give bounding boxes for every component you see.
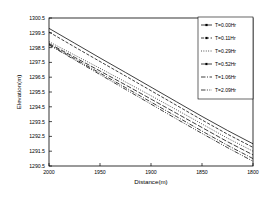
legend-label-4: T=1.06Hr [215, 74, 236, 80]
legend-marker-1 [205, 37, 207, 39]
y-tick-label: 1295.5 [29, 89, 45, 95]
chart-legend: T=0.00HrT=0.11HrT=0.29HrT=0.52HrT=1.06Hr… [198, 17, 253, 99]
legend-marker-3 [205, 63, 207, 65]
y-tick-label: 1291.5 [29, 148, 45, 154]
y-tick-label: 1296.5 [29, 74, 45, 80]
x-tick-label: 1900 [145, 169, 157, 175]
chart-figure: 1290.51291.51292.51293.51294.51295.51296… [0, 0, 270, 197]
y-axis-title: Elevation(m) [15, 75, 22, 110]
y-tick-label: 1294.5 [29, 104, 45, 110]
legend-label-2: T=0.29Hr [215, 48, 236, 54]
y-tick-label: 1293.5 [29, 119, 45, 125]
y-tick-label: 1299.5 [29, 30, 45, 36]
legend-label-1: T=0.11Hr [215, 35, 236, 41]
x-tick-label: 1850 [196, 169, 208, 175]
x-tick-label: 2000 [43, 169, 55, 175]
y-tick-label: 1300.5 [29, 15, 45, 21]
legend-label-3: T=0.52Hr [215, 61, 236, 67]
y-tick-label: 1298.5 [29, 45, 45, 51]
legend-label-0: T=0.00Hr [215, 22, 236, 28]
y-tick-label: 1297.5 [29, 59, 45, 65]
x-tick-label: 1800 [247, 169, 259, 175]
legend-marker-0 [205, 24, 207, 26]
x-tick-label: 1950 [94, 169, 106, 175]
legend-label-5: T=2.09Hr [215, 87, 236, 93]
line-chart: 1290.51291.51292.51293.51294.51295.51296… [0, 0, 270, 197]
x-axis-title: Distance(m) [134, 178, 167, 185]
y-tick-label: 1292.5 [29, 133, 45, 139]
